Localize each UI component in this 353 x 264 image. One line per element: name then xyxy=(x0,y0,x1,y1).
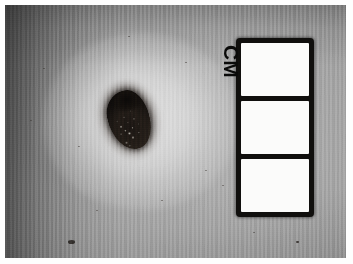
page-root: CM xyxy=(0,0,353,264)
cm-scale-cell-2 xyxy=(241,101,309,154)
clinical-photograph: CM xyxy=(5,5,346,258)
cm-scale-cell-3 xyxy=(241,159,309,212)
cm-scale-cell-1: CM xyxy=(241,43,309,96)
cm-scale-card: CM xyxy=(236,38,314,217)
cm-unit-label: CM xyxy=(221,45,242,78)
